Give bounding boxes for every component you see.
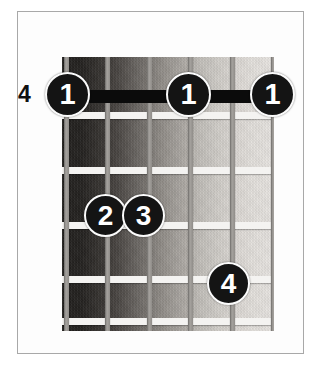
chord-diagram: 4 111234 — [0, 0, 322, 367]
fret-line-5 — [62, 318, 274, 325]
finger-dot-3-5: 3 — [122, 194, 165, 237]
finger-dot-2-4: 2 — [84, 194, 127, 237]
fret-line-2 — [62, 167, 274, 174]
fret-number-label: 4 — [18, 83, 31, 106]
finger-dot-1-1: 1 — [45, 72, 90, 117]
finger-dot-1-2: 1 — [166, 72, 211, 117]
finger-dot-4-6: 4 — [207, 262, 250, 305]
fret-line-1 — [62, 112, 274, 119]
finger-dot-1-3: 1 — [250, 72, 295, 117]
